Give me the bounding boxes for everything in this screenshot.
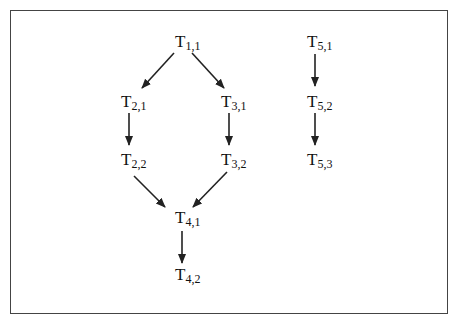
node-T11: T1,1 <box>175 32 200 52</box>
node-subscript: 5,3 <box>317 157 332 171</box>
node-letter: T <box>221 92 231 111</box>
edge-T32-T41 <box>193 172 227 207</box>
node-subscript: 5,2 <box>317 99 332 113</box>
node-subscript: 2,1 <box>131 99 146 113</box>
edge-T11-T31 <box>192 53 224 88</box>
edge-T11-T21 <box>142 53 174 88</box>
node-letter: T <box>175 32 185 51</box>
node-subscript: 3,2 <box>231 157 246 171</box>
node-subscript: 4,2 <box>185 272 200 286</box>
node-letter: T <box>307 32 317 51</box>
node-T21: T2,1 <box>121 92 146 112</box>
node-T53: T5,3 <box>307 150 332 170</box>
node-letter: T <box>121 150 131 169</box>
node-letter: T <box>307 150 317 169</box>
node-subscript: 2,2 <box>131 157 146 171</box>
node-T51: T5,1 <box>307 32 332 52</box>
node-subscript: 4,1 <box>185 215 200 229</box>
node-letter: T <box>307 92 317 111</box>
node-subscript: 1,1 <box>185 39 200 53</box>
node-T41: T4,1 <box>175 208 200 228</box>
node-T22: T2,2 <box>121 150 146 170</box>
node-letter: T <box>175 265 185 284</box>
node-subscript: 3,1 <box>231 99 246 113</box>
node-letter: T <box>121 92 131 111</box>
node-letter: T <box>221 150 231 169</box>
node-T32: T3,2 <box>221 150 246 170</box>
node-T42: T4,2 <box>175 265 200 285</box>
node-T52: T5,2 <box>307 92 332 112</box>
edge-T22-T41 <box>134 176 165 207</box>
node-subscript: 5,1 <box>317 39 332 53</box>
node-T31: T3,1 <box>221 92 246 112</box>
node-letter: T <box>175 208 185 227</box>
